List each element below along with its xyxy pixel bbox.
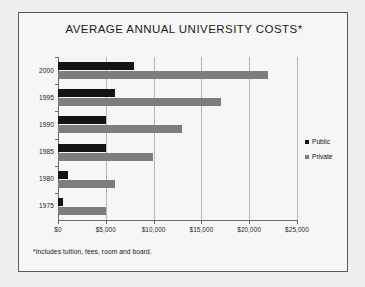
y-axis-tick: [55, 193, 58, 194]
y-axis-tick: [55, 166, 58, 167]
x-gridline: [106, 57, 107, 220]
x-axis-tick-label: $25,000: [285, 226, 309, 233]
bar-public-1990: [58, 116, 106, 124]
bar-public-2000: [58, 62, 134, 70]
bar-public-1995: [58, 89, 115, 97]
plot-area: [58, 57, 297, 220]
x-gridline: [58, 57, 59, 220]
legend-item-label: Public: [312, 138, 330, 145]
chart-title: AVERAGE ANNUAL UNIVERSITY COSTS*: [19, 23, 349, 35]
bar-public-1975: [58, 198, 63, 206]
x-axis-tick: [201, 220, 202, 224]
chart-frame: AVERAGE ANNUAL UNIVERSITY COSTS* PublicP…: [18, 12, 348, 272]
y-axis-tick-label: 2000: [19, 67, 54, 74]
y-axis-tick: [55, 111, 58, 112]
x-axis-tick: [249, 220, 250, 224]
bar-private-2000: [58, 71, 268, 79]
bar-private-1985: [58, 153, 153, 161]
y-axis-tick-label: 1995: [19, 94, 54, 101]
x-axis-tick: [58, 220, 59, 224]
y-axis-tick: [55, 139, 58, 140]
legend-item-public: Public: [305, 138, 333, 145]
y-axis-tick: [55, 57, 58, 58]
legend-item-label: Private: [312, 153, 333, 160]
chart-legend: PublicPrivate: [305, 138, 333, 168]
bar-public-1980: [58, 171, 68, 179]
x-axis-tick-label: $20,000: [237, 226, 261, 233]
x-gridline: [201, 57, 202, 220]
bar-private-1990: [58, 125, 182, 133]
chart-footnote: *Includes tuition, fees, room and board.: [33, 248, 152, 255]
bar-private-1995: [58, 98, 221, 106]
x-axis-tick-label: $0: [54, 226, 61, 233]
y-axis-tick-label: 1980: [19, 175, 54, 182]
x-axis-tick: [154, 220, 155, 224]
x-axis-line: [58, 220, 297, 221]
x-axis-tick: [297, 220, 298, 224]
y-axis-tick-label: 1985: [19, 148, 54, 155]
x-gridline: [249, 57, 250, 220]
x-gridline: [154, 57, 155, 220]
bar-public-1985: [58, 144, 106, 152]
x-gridline: [297, 57, 298, 220]
bar-private-1980: [58, 180, 115, 188]
y-axis-tick-label: 1990: [19, 121, 54, 128]
y-axis-tick: [55, 84, 58, 85]
y-axis-tick-label: 1975: [19, 202, 54, 209]
bar-private-1975: [58, 207, 106, 215]
x-axis-tick-label: $10,000: [142, 226, 166, 233]
legend-item-private: Private: [305, 153, 333, 160]
x-axis-tick-label: $5,000: [96, 226, 116, 233]
legend-swatch-icon: [305, 140, 309, 144]
x-axis-tick-label: $15,000: [189, 226, 213, 233]
x-axis-tick: [106, 220, 107, 224]
legend-swatch-icon: [305, 155, 309, 159]
